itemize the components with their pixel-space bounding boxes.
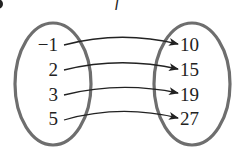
mapping-arrow [64,87,178,95]
range-value: 10 [180,34,199,55]
range-value: 27 [180,108,199,129]
mapping-arrow [64,63,178,70]
mapping-diagram: f −1 2 3 5 10 15 19 27 [0,0,244,151]
domain-value: 5 [49,108,59,129]
domain-value: 3 [49,84,59,105]
domain-value: −1 [38,34,58,55]
partial-glyph [0,0,3,9]
function-label: f [115,0,122,10]
range-value: 19 [180,84,199,105]
range-value: 15 [180,59,199,80]
domain-value: 2 [49,59,59,80]
